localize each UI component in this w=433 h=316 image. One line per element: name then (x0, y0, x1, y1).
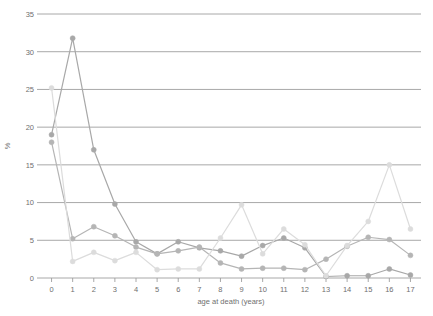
data-point (260, 251, 265, 256)
data-point (366, 219, 371, 224)
data-point (91, 147, 96, 152)
data-point (408, 226, 413, 231)
y-tick-label: 20 (26, 123, 34, 132)
data-point (176, 266, 181, 271)
x-tick-label: 14 (343, 285, 351, 294)
y-axis-title: % (3, 142, 12, 149)
data-point (218, 236, 223, 241)
line-chart: 05101520253035 0123456789101112131415161… (0, 0, 433, 316)
x-tick-label: 5 (155, 285, 159, 294)
data-point (387, 162, 392, 167)
data-point (70, 236, 75, 241)
data-point (91, 250, 96, 255)
data-point (112, 233, 117, 238)
x-tick-label: 9 (239, 285, 243, 294)
chart-container: 05101520253035 0123456789101112131415161… (0, 0, 433, 316)
data-point (49, 140, 54, 145)
data-point (408, 253, 413, 258)
data-point (324, 273, 329, 278)
chart-background (0, 0, 433, 316)
data-point (112, 258, 117, 263)
x-tick-label: 6 (176, 285, 180, 294)
x-axis-title: age at death (years) (197, 297, 265, 306)
x-tick-label: 1 (71, 285, 75, 294)
x-tick-label: 3 (113, 285, 117, 294)
x-tick-label: 15 (364, 285, 372, 294)
data-point (197, 245, 202, 250)
y-tick-label: 30 (26, 48, 34, 57)
data-point (134, 250, 139, 255)
data-point (49, 85, 54, 90)
data-point (155, 267, 160, 272)
data-point (112, 202, 117, 207)
x-tick-label: 8 (218, 285, 222, 294)
data-point (387, 237, 392, 242)
data-point (70, 36, 75, 41)
data-point (134, 239, 139, 244)
y-tick-label: 25 (26, 85, 34, 94)
data-point (302, 242, 307, 247)
x-tick-label: 7 (197, 285, 201, 294)
x-tick-label: 17 (406, 285, 414, 294)
data-point (408, 272, 413, 277)
y-tick-label: 10 (26, 198, 34, 207)
data-point (324, 257, 329, 262)
y-tick-label: 15 (26, 161, 34, 170)
x-tick-label: 4 (134, 285, 138, 294)
data-point (218, 248, 223, 253)
data-point (260, 243, 265, 248)
data-point (281, 236, 286, 241)
x-tick-label: 0 (49, 285, 53, 294)
data-point (218, 260, 223, 265)
data-point (91, 224, 96, 229)
x-tick-label: 11 (280, 285, 288, 294)
data-point (176, 248, 181, 253)
data-point (387, 266, 392, 271)
y-tick-label: 5 (30, 236, 34, 245)
data-point (345, 273, 350, 278)
data-point (197, 266, 202, 271)
data-point (260, 266, 265, 271)
x-tick-label: 13 (322, 285, 330, 294)
data-point (366, 273, 371, 278)
x-tick-label: 12 (301, 285, 309, 294)
data-point (281, 226, 286, 231)
data-point (366, 235, 371, 240)
x-tick-label: 16 (385, 285, 393, 294)
data-point (239, 254, 244, 259)
data-point (345, 243, 350, 248)
y-tick-label: 0 (30, 274, 34, 283)
y-tick-label: 35 (26, 10, 34, 19)
data-point (239, 266, 244, 271)
data-point (281, 266, 286, 271)
data-point (49, 132, 54, 137)
data-point (70, 259, 75, 264)
data-point (302, 267, 307, 272)
x-tick-label: 2 (92, 285, 96, 294)
x-tick-label: 10 (258, 285, 266, 294)
data-point (176, 239, 181, 244)
data-point (155, 251, 160, 256)
data-point (134, 245, 139, 250)
data-point (239, 202, 244, 207)
